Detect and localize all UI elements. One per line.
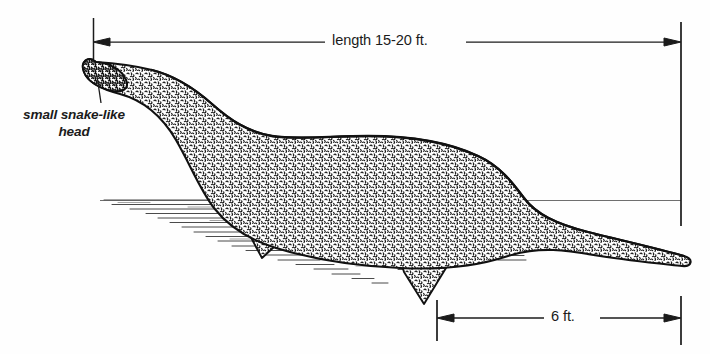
length-arrow-left — [93, 38, 110, 46]
creature-body — [83, 59, 691, 268]
head-callout-label: small snake-like head — [12, 107, 136, 140]
head-callout-line-1: small snake-like — [23, 107, 125, 122]
head-callout-line-2: head — [12, 124, 136, 141]
depth-dimension-label: 6 ft. — [551, 307, 575, 324]
length-dimension-label: length 15-20 ft. — [332, 31, 428, 48]
length-arrow-right — [664, 38, 681, 46]
depth-arrow-right — [664, 314, 681, 322]
lake-monster-diagram: length 15-20 ft. 6 ft. small snake-like … — [0, 0, 710, 354]
diagram-canvas — [0, 0, 710, 354]
depth-arrow-left — [437, 314, 454, 322]
